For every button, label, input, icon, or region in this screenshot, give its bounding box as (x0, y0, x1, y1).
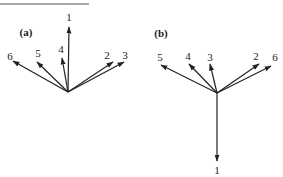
vector-label: 5 (157, 51, 163, 63)
vector-label: 1 (214, 164, 220, 176)
vector-label: 1 (66, 11, 72, 23)
vector-arrow-4 (189, 64, 217, 93)
vector-label: 3 (122, 49, 128, 61)
vector-label: 4 (58, 43, 64, 55)
vector-arrow-6 (217, 66, 271, 93)
vector-arrow-2 (217, 64, 259, 93)
panel-label: (a) (20, 26, 33, 39)
vector-label: 6 (7, 50, 13, 62)
vector-label: 2 (253, 50, 259, 62)
vector-arrow-5 (161, 65, 217, 93)
vector-arrow-1 (68, 27, 69, 92)
vector-label: 6 (272, 51, 278, 63)
vector-arrow-2 (68, 62, 113, 92)
vector-label: 4 (185, 50, 191, 62)
panel-a: (a)165423 (7, 11, 128, 92)
vector-arrow-3 (68, 62, 124, 92)
vector-label: 3 (207, 51, 213, 63)
vector-label: 5 (35, 47, 41, 59)
panel-b: (b)154326 (154, 27, 278, 176)
panel-label: (b) (154, 27, 168, 40)
vector-diagram: (a)165423(b)154326 (0, 0, 283, 177)
vector-label: 2 (104, 49, 110, 61)
